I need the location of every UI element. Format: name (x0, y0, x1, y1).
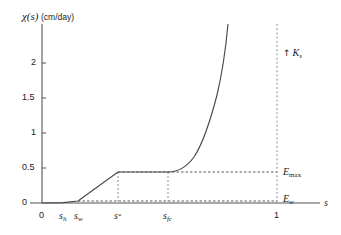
y-axis-ticks (42, 63, 46, 168)
y-tick-label-2: 2 (31, 58, 36, 67)
annotation-emax: Emax (283, 167, 301, 179)
x-tick-label-s-h: sh (59, 211, 66, 223)
chart-figure: χ(s) (cm/day) 0 0.5 1 1.5 2 0 sh sw s* s… (0, 0, 341, 235)
y-axis-unit: (cm/day) (41, 12, 74, 22)
y-tick-label-0.5: 0.5 (22, 163, 35, 172)
x-tick-label-1: 1 (274, 211, 279, 220)
x-axis-title: s (324, 198, 328, 208)
x-tick-label-0: 0 (39, 211, 44, 220)
chi-loss-function-curve (42, 24, 228, 203)
x-tick-s-fc-subscript: fc (167, 215, 172, 223)
y-tick-label-1: 1 (31, 128, 36, 137)
annotation-ew-subscript: w (289, 198, 294, 206)
x-tick-s-star-superscript: * (118, 212, 122, 220)
y-axis-symbol: χ(s) (22, 10, 38, 22)
x-tick-s-w-subscript: w (78, 215, 83, 223)
y-tick-label-0: 0 (22, 198, 27, 207)
annotation-emax-subscript: max (289, 171, 301, 179)
x-tick-s-h-subscript: h (63, 215, 67, 223)
x-tick-label-s-star: s* (114, 211, 121, 221)
y-axis-title: χ(s) (cm/day) (22, 10, 74, 22)
x-tick-label-s-fc: sfc (163, 211, 172, 223)
y-tick-label-1.5: 1.5 (22, 93, 35, 102)
annotation-ew: Ew (283, 194, 294, 206)
annotation-ks: ↑Ks (283, 43, 302, 60)
up-arrow-icon: ↑ (283, 48, 291, 58)
annotation-ks-subscript: s (299, 52, 302, 60)
x-tick-label-s-w: sw (74, 211, 83, 223)
